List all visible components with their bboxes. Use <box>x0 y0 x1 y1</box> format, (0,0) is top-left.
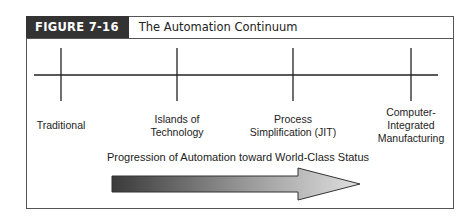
stage-label-process-simplification: Process Simplification (JIT) <box>238 113 348 139</box>
stage-label-traditional: Traditional <box>31 119 91 132</box>
arrow-caption: Progression of Automation toward World-C… <box>0 151 476 163</box>
progression-arrow-icon <box>112 168 360 200</box>
stage-label-cim: Computer- Integrated Manufacturing <box>366 106 456 145</box>
stage-label-islands-of-technology: Islands of Technology <box>132 113 222 139</box>
